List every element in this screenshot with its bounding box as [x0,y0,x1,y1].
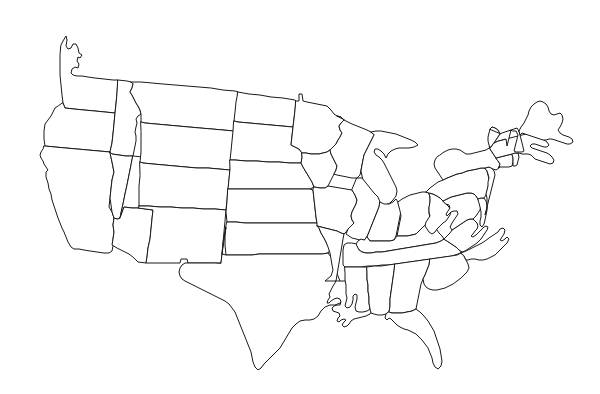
us-states-map: Washington Oregon California Idaho Nevad… [0,0,600,394]
state-ms[interactable]: Mississippi [345,267,370,312]
state-ok[interactable]: Oklahoma [222,222,330,255]
state-co[interactable]: Colorado [139,162,230,210]
state-ne[interactable]: Nebraska [228,160,314,189]
state-ks[interactable]: Kansas [226,189,317,223]
us-outline-map-figure: Washington Oregon California Idaho Nevad… [0,0,600,394]
